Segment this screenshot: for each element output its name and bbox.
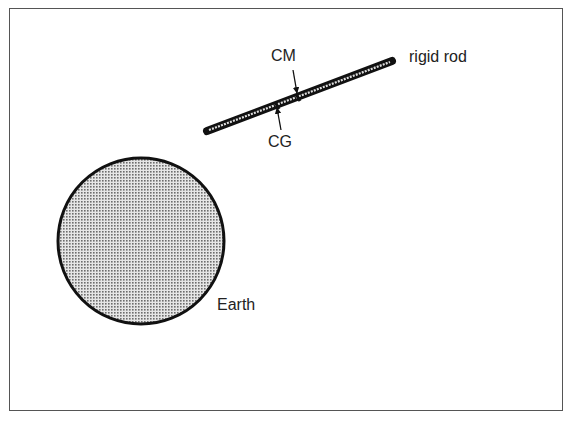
cg-arrow [277,108,281,130]
cm-label: CM [271,47,296,65]
cg-label: CG [268,133,292,151]
rigid-rod [207,61,392,131]
rigid-rod-label: rigid rod [409,48,467,66]
earth [58,158,224,324]
earth-label: Earth [217,296,255,314]
cm-arrow [293,70,297,93]
